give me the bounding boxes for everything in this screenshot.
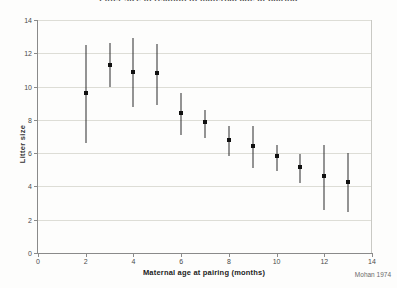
- x-axis-tick-label: 6: [179, 258, 183, 265]
- x-axis-tick: [372, 253, 373, 257]
- plot-frame-right-edge: [371, 20, 372, 253]
- x-axis-tick: [324, 253, 325, 257]
- data-point-marker: [298, 165, 302, 169]
- x-axis-tick: [277, 253, 278, 257]
- data-point-marker: [131, 70, 135, 74]
- data-point-marker: [322, 174, 326, 178]
- y-axis-tick-label: 0: [28, 250, 32, 257]
- x-axis-tick: [181, 253, 182, 257]
- y-axis-tick: [34, 53, 38, 54]
- y-axis-tick-label: 2: [28, 216, 32, 223]
- gridline-horizontal: [38, 153, 372, 154]
- x-axis-tick-label: 10: [273, 258, 281, 265]
- x-axis-tick: [133, 253, 134, 257]
- gridline-horizontal: [38, 220, 372, 221]
- y-axis-tick-label: 10: [24, 83, 32, 90]
- data-point-marker: [155, 71, 159, 75]
- source-credit: Mohan 1974: [355, 271, 391, 278]
- plot-area: 0246810121402468101214: [37, 20, 372, 254]
- x-axis-title: Maternal age at pairing (months): [37, 268, 371, 277]
- x-axis-tick-label: 12: [320, 258, 328, 265]
- gridline-horizontal: [38, 53, 372, 54]
- x-axis-tick-label: 0: [36, 258, 40, 265]
- y-axis-tick-label: 14: [24, 17, 32, 24]
- y-axis-tick: [34, 220, 38, 221]
- y-axis-tick-label: 6: [28, 150, 32, 157]
- data-point-marker: [203, 120, 207, 124]
- x-axis-tick: [86, 253, 87, 257]
- x-axis-tick-label: 2: [84, 258, 88, 265]
- gridline-horizontal: [38, 87, 372, 88]
- data-point-marker: [251, 144, 255, 148]
- y-axis-tick-label: 4: [28, 183, 32, 190]
- gridline-horizontal: [38, 186, 372, 187]
- chart-title: Litter size in relation to maternal age …: [0, 0, 397, 1]
- y-axis-tick: [34, 186, 38, 187]
- data-point-marker: [84, 91, 88, 95]
- data-point-marker: [227, 138, 231, 142]
- x-axis-tick: [38, 253, 39, 257]
- gridline-horizontal: [38, 20, 372, 21]
- y-axis-tick-label: 8: [28, 116, 32, 123]
- y-axis-tick-label: 12: [24, 50, 32, 57]
- y-axis-tick: [34, 153, 38, 154]
- y-axis-title: Litter size: [18, 125, 27, 163]
- x-axis-tick-label: 14: [368, 258, 376, 265]
- data-point-marker: [179, 111, 183, 115]
- x-axis-tick-label: 4: [131, 258, 135, 265]
- scatter-chart: Litter size in relation to maternal age …: [0, 0, 397, 288]
- data-point-marker: [346, 180, 350, 184]
- data-point-marker: [108, 63, 112, 67]
- y-axis-tick: [34, 87, 38, 88]
- data-point-marker: [275, 154, 279, 158]
- x-axis-tick-label: 8: [227, 258, 231, 265]
- error-bar: [276, 145, 277, 171]
- x-axis-tick: [229, 253, 230, 257]
- y-axis-tick: [34, 20, 38, 21]
- y-axis-tick: [34, 120, 38, 121]
